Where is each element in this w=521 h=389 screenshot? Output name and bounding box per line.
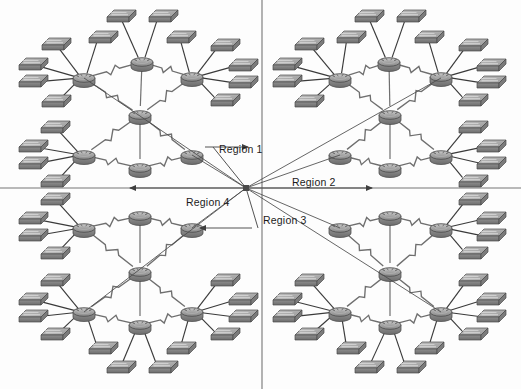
- switch-icon: [41, 121, 70, 133]
- switch-icon: [459, 193, 488, 205]
- switch-icon: [211, 94, 240, 106]
- router-icon: [329, 74, 351, 88]
- switch-icon: [397, 361, 426, 373]
- router-icon: [73, 74, 95, 88]
- region-connector-line: [246, 155, 340, 188]
- line-link-icon: [449, 156, 479, 163]
- lightning-link-icon: [397, 121, 434, 150]
- line-link-icon: [389, 71, 390, 106]
- router-icon: [329, 224, 351, 238]
- switch-icon: [273, 75, 302, 87]
- router-icon: [430, 224, 452, 238]
- switch-icon: [337, 342, 366, 354]
- line-link-icon: [59, 131, 78, 152]
- switch-icon: [337, 31, 366, 43]
- lightning-link-icon: [93, 217, 131, 226]
- line-link-icon: [429, 43, 438, 73]
- line-link-icon: [198, 285, 216, 309]
- router-icon: [73, 151, 95, 165]
- line-link-icon: [122, 21, 138, 57]
- line-link-icon: [449, 229, 479, 235]
- line-link-icon: [370, 21, 385, 57]
- line-link-icon: [447, 131, 464, 151]
- topology-svg: [0, 0, 521, 389]
- switch-icon: [355, 361, 384, 373]
- router-icon: [379, 321, 401, 335]
- switch-icon: [295, 328, 324, 340]
- region-leader-line: [213, 147, 246, 188]
- lightning-link-icon: [347, 278, 383, 307]
- lightning-link-icon: [399, 218, 432, 226]
- switch-icon: [477, 140, 506, 152]
- switch-icon: [477, 157, 506, 169]
- switch-icon: [273, 58, 302, 70]
- line-link-icon: [145, 22, 157, 58]
- lightning-link-icon: [93, 314, 131, 323]
- line-link-icon: [449, 67, 479, 76]
- switch-icon: [19, 58, 48, 70]
- router-icon: [379, 164, 401, 178]
- switch-icon: [415, 31, 444, 43]
- switch-icon: [273, 293, 302, 305]
- line-link-icon: [449, 220, 479, 227]
- line-link-icon: [449, 78, 479, 83]
- switch-icon: [415, 342, 444, 354]
- switch-icon: [295, 38, 324, 50]
- switch-icon: [229, 76, 258, 88]
- router-icon: [329, 308, 351, 322]
- lightning-link-icon: [149, 157, 184, 166]
- switch-icon: [89, 342, 118, 354]
- router-icon: [129, 212, 151, 226]
- switch-icon: [167, 31, 196, 43]
- switch-icon: [273, 310, 302, 322]
- switch-icon: [229, 59, 258, 71]
- region-connector-line: [246, 188, 340, 228]
- switch-icon: [295, 95, 324, 107]
- line-link-icon: [59, 203, 78, 224]
- line-link-icon: [393, 330, 404, 364]
- switch-icon: [42, 95, 71, 107]
- line-link-icon: [140, 71, 141, 106]
- switch-icon: [149, 10, 178, 22]
- switch-icon: [459, 274, 488, 286]
- switch-icon: [19, 212, 48, 224]
- switch-icon: [459, 175, 488, 187]
- region-connector-line: [246, 78, 441, 188]
- switch-icon: [459, 121, 488, 133]
- switch-icon: [42, 38, 71, 50]
- region-connector-line: [192, 155, 246, 188]
- lightning-link-icon: [93, 157, 131, 166]
- lightning-link-icon: [91, 120, 132, 150]
- lightning-link-icon: [349, 157, 382, 165]
- lightning-link-icon: [149, 314, 184, 323]
- lightning-link-icon: [91, 277, 132, 307]
- lightning-link-icon: [347, 121, 383, 150]
- lightning-link-icon: [347, 83, 383, 109]
- switch-icon: [355, 10, 384, 22]
- router-icon: [129, 111, 151, 125]
- lightning-link-icon: [398, 64, 433, 74]
- lightning-link-icon: [147, 277, 185, 306]
- switch-icon: [397, 10, 426, 22]
- router-icon: [129, 321, 151, 335]
- router-icon: [379, 212, 401, 226]
- switch-icon: [19, 293, 48, 305]
- router-icon: [181, 308, 203, 322]
- lightning-link-icon: [347, 234, 383, 266]
- switch-icon: [107, 361, 136, 373]
- line-link-icon: [312, 48, 334, 74]
- region-connector-line: [246, 188, 441, 312]
- switch-icon: [211, 274, 240, 286]
- line-link-icon: [39, 301, 76, 311]
- line-link-icon: [392, 22, 404, 58]
- switch-icon: [19, 75, 48, 87]
- line-link-icon: [446, 285, 463, 309]
- line-link-icon: [87, 43, 97, 74]
- line-link-icon: [370, 329, 386, 363]
- switch-icon: [459, 247, 488, 259]
- switch-icon: [89, 31, 118, 43]
- line-link-icon: [449, 313, 479, 317]
- switch-icon: [41, 328, 70, 340]
- lightning-link-icon: [349, 314, 382, 322]
- switch-icon: [229, 310, 258, 322]
